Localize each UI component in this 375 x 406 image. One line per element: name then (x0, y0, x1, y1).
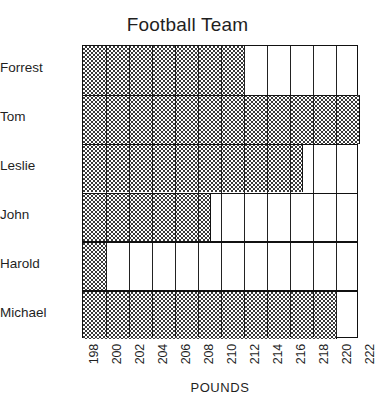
grid-line-vertical (290, 46, 291, 337)
grid-line-horizontal (83, 290, 357, 291)
x-tick-214: 214 (271, 344, 285, 384)
x-tick-208: 208 (202, 344, 216, 384)
grid-line-horizontal (83, 144, 357, 145)
grid-line-vertical (221, 46, 222, 337)
grid-line-vertical (198, 46, 199, 337)
grid-line-vertical (336, 46, 337, 337)
bar-leslie[interactable] (83, 144, 303, 193)
category-label-leslie: Leslie (0, 158, 76, 173)
bar-harold[interactable] (83, 241, 107, 290)
x-tick-218: 218 (317, 344, 331, 384)
x-tick-206: 206 (179, 344, 193, 384)
x-tick-212: 212 (248, 344, 262, 384)
grid-line-vertical (106, 46, 107, 337)
plot-area (82, 45, 358, 338)
x-tick-200: 200 (110, 344, 124, 384)
x-tick-204: 204 (156, 344, 170, 384)
chart-title: Football Team (0, 14, 375, 36)
grid-line-vertical (244, 46, 245, 337)
grid-line-vertical (129, 46, 130, 337)
x-tick-216: 216 (294, 344, 308, 384)
grid-line-horizontal (83, 95, 357, 96)
bar-john[interactable] (83, 193, 211, 242)
x-tick-210: 210 (225, 344, 239, 384)
grid-line-vertical (152, 46, 153, 337)
category-label-michael: Michael (0, 305, 76, 320)
x-tick-198: 198 (87, 344, 101, 384)
x-tick-202: 202 (133, 344, 147, 384)
x-axis-title: POUNDS (82, 380, 358, 395)
category-label-harold: Harold (0, 256, 76, 271)
x-tick-222: 222 (363, 344, 375, 384)
grid-line-vertical (267, 46, 268, 337)
bar-michael[interactable] (83, 290, 337, 339)
category-label-john: John (0, 207, 76, 222)
grid-line-vertical (313, 46, 314, 337)
grid-line-horizontal (83, 193, 357, 194)
grid-line-horizontal (83, 241, 357, 242)
category-label-tom: Tom (0, 109, 76, 124)
grid-line-vertical (175, 46, 176, 337)
x-tick-220: 220 (340, 344, 354, 384)
category-label-forrest: Forrest (0, 60, 76, 75)
